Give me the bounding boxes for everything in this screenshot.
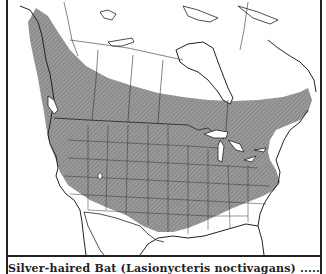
map-caption: Silver-haired Bat (Lasionycteris noctiva… (8, 262, 320, 274)
great-salt-lake (98, 173, 102, 179)
caption-divider (6, 255, 322, 257)
baja-coast (84, 212, 104, 255)
arctic-island (100, 10, 116, 20)
hudson-bay (176, 42, 233, 104)
arctic-island (183, 6, 218, 22)
range-map (8, 0, 320, 255)
arctic-island (238, 6, 278, 24)
arctic-island (108, 38, 134, 46)
labrador-coast (268, 40, 316, 92)
